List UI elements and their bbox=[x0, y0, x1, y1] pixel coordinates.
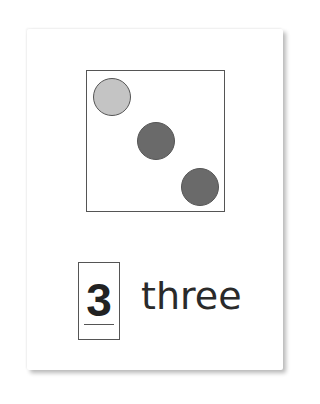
dot-2 bbox=[137, 122, 175, 160]
dot-3 bbox=[181, 168, 219, 206]
numeral-box: 3 bbox=[78, 262, 120, 340]
numeral: 3 bbox=[79, 277, 119, 323]
number-word: three bbox=[141, 268, 242, 324]
numeral-underline bbox=[84, 324, 114, 325]
dot-1 bbox=[93, 78, 131, 116]
